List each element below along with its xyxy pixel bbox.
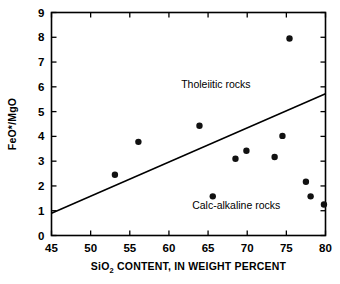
x-axis-title-prefix: SiO: [91, 260, 110, 272]
data-point[interactable]: [232, 155, 238, 161]
y-tick-label: 5: [38, 106, 45, 118]
plot-annotation: Calc-alkaline rocks: [192, 199, 280, 211]
scatter-plot-figure: 45505560657075800123456789Tholeiitic roc…: [0, 0, 340, 284]
y-tick-label: 3: [38, 155, 44, 167]
x-tick-label: 60: [163, 242, 176, 254]
x-tick-label: 75: [280, 242, 293, 254]
y-tick-label: 1: [38, 205, 45, 217]
y-tick-label: 7: [38, 56, 44, 68]
data-point[interactable]: [303, 179, 309, 185]
y-tick-label: 6: [38, 81, 44, 93]
y-tick-label: 2: [38, 180, 44, 192]
data-point[interactable]: [307, 193, 313, 199]
divider-trend-line: [52, 94, 326, 213]
y-tick-label: 8: [38, 31, 45, 43]
x-tick-label: 80: [319, 242, 332, 254]
x-axis-title-suffix: CONTENT, IN WEIGHT PERCENT: [114, 260, 287, 272]
plot-annotation: Tholeiitic rocks: [181, 78, 250, 90]
data-point[interactable]: [279, 133, 285, 139]
y-axis-title: FeO*/MgO: [6, 98, 18, 150]
y-tick-label: 9: [38, 7, 44, 19]
x-tick-label: 50: [84, 242, 97, 254]
data-point[interactable]: [112, 172, 118, 178]
data-point[interactable]: [271, 154, 277, 160]
data-point[interactable]: [135, 139, 141, 145]
plot-frame: [52, 13, 326, 236]
x-axis-title: SiO2 CONTENT, IN WEIGHT PERCENT: [91, 260, 287, 275]
x-tick-label: 45: [45, 242, 58, 254]
y-tick-label: 4: [38, 130, 45, 142]
data-point[interactable]: [321, 201, 327, 207]
x-tick-label: 55: [123, 242, 136, 254]
x-tick-label: 70: [241, 242, 254, 254]
y-tick-label: 0: [38, 230, 44, 242]
plot-canvas: 45505560657075800123456789Tholeiitic roc…: [0, 0, 340, 284]
x-tick-label: 65: [202, 242, 215, 254]
data-point[interactable]: [286, 35, 292, 41]
data-point[interactable]: [243, 148, 249, 154]
data-point[interactable]: [196, 123, 202, 129]
